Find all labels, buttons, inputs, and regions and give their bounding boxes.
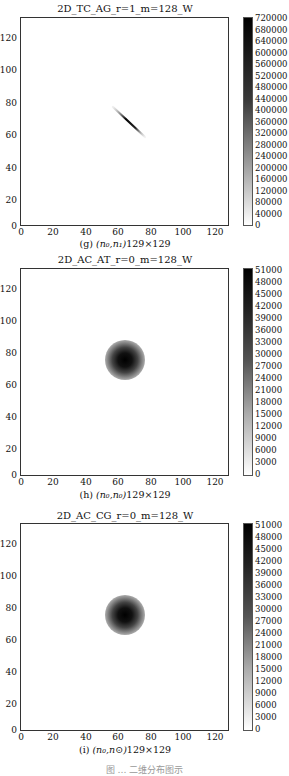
xtick: 100 bbox=[174, 227, 191, 237]
xtick: 100 bbox=[174, 732, 191, 742]
xtick: 120 bbox=[206, 227, 223, 237]
cb-label: 24000 bbox=[255, 629, 282, 638]
cb-label: 6000 bbox=[255, 701, 277, 710]
xtick: 0 bbox=[18, 227, 24, 237]
cb-label: 51000 bbox=[255, 266, 282, 275]
cb-label: 40000 bbox=[255, 210, 282, 219]
xtick: 0 bbox=[18, 477, 24, 487]
ytick: 0 bbox=[11, 725, 17, 735]
ytick: 20 bbox=[6, 195, 17, 205]
cb-label: 600000 bbox=[255, 49, 287, 58]
cb-label: 0 bbox=[255, 470, 260, 479]
xtick: 20 bbox=[47, 477, 58, 487]
xtick: 20 bbox=[47, 732, 58, 742]
cb-label: 0 bbox=[255, 725, 260, 734]
chart-title: 2D_TC_AG_r=1_m=128_W bbox=[20, 3, 230, 15]
cb-label: 9000 bbox=[255, 434, 277, 443]
cb-label: 440000 bbox=[255, 95, 287, 104]
heatmap-blob bbox=[105, 595, 145, 635]
cb-label: 160000 bbox=[255, 175, 287, 184]
ytick: 60 bbox=[6, 130, 17, 140]
colorbar bbox=[243, 523, 253, 731]
ytick: 40 bbox=[6, 412, 17, 422]
xtick: 100 bbox=[174, 477, 191, 487]
xtick: 120 bbox=[206, 477, 223, 487]
cb-label: 51000 bbox=[255, 521, 282, 530]
xtick: 80 bbox=[145, 227, 156, 237]
xtick: 60 bbox=[112, 477, 123, 487]
cb-label: 27000 bbox=[255, 362, 282, 371]
cb-label: 39000 bbox=[255, 314, 282, 323]
cb-label: 360000 bbox=[255, 118, 287, 127]
cb-label: 80000 bbox=[255, 198, 282, 207]
cb-label: 33000 bbox=[255, 338, 282, 347]
ytick: 0 bbox=[11, 221, 17, 231]
ytick: 100 bbox=[0, 316, 17, 326]
cb-label: 400000 bbox=[255, 106, 287, 115]
chart-title: 2D_AC_AT_r=0_m=128_W bbox=[20, 254, 230, 266]
subfigure-caption: (g) (n₀,n₁)129×129 bbox=[20, 238, 230, 249]
cb-label: 680000 bbox=[255, 26, 287, 35]
ytick: 40 bbox=[6, 163, 17, 173]
caption-vars: (n₀,n⊙) bbox=[92, 744, 126, 755]
cb-label: 200000 bbox=[255, 164, 287, 173]
subfigure-caption: (h) (n₀,n₀)129×129 bbox=[20, 489, 230, 500]
cb-label: 30000 bbox=[255, 605, 282, 614]
ytick: 20 bbox=[6, 699, 17, 709]
ytick: 20 bbox=[6, 444, 17, 454]
caption-size: 129×129 bbox=[127, 744, 171, 755]
cb-label: 48000 bbox=[255, 278, 282, 287]
cb-label: 3000 bbox=[255, 458, 277, 467]
cb-label: 9000 bbox=[255, 689, 277, 698]
xtick: 60 bbox=[112, 227, 123, 237]
xtick: 40 bbox=[80, 227, 91, 237]
figure-caption: 图 … 二维分布图示 bbox=[0, 763, 289, 776]
chart-title: 2D_AC_CG_r=0_m=128_W bbox=[20, 510, 230, 522]
ytick: 40 bbox=[6, 667, 17, 677]
cb-label: 15000 bbox=[255, 665, 282, 674]
heatmap-blob bbox=[105, 340, 145, 380]
xtick: 60 bbox=[112, 732, 123, 742]
cb-label: 720000 bbox=[255, 14, 287, 23]
cb-label: 48000 bbox=[255, 533, 282, 542]
ytick: 80 bbox=[6, 603, 17, 613]
heatmap-streak bbox=[21, 18, 228, 225]
cb-label: 640000 bbox=[255, 37, 287, 46]
caption-label: (g) bbox=[79, 238, 96, 249]
ytick: 100 bbox=[0, 571, 17, 581]
caption-label: (h) bbox=[79, 489, 96, 500]
cb-label: 42000 bbox=[255, 557, 282, 566]
xtick: 80 bbox=[145, 732, 156, 742]
ytick: 60 bbox=[6, 635, 17, 645]
caption-label: (i) bbox=[79, 744, 92, 755]
cb-label: 560000 bbox=[255, 60, 287, 69]
cb-label: 45000 bbox=[255, 290, 282, 299]
xtick: 0 bbox=[18, 732, 24, 742]
cb-label: 39000 bbox=[255, 569, 282, 578]
colorbar bbox=[243, 17, 253, 226]
cb-label: 36000 bbox=[255, 581, 282, 590]
plot-area bbox=[20, 17, 229, 226]
caption-size: 129×129 bbox=[126, 238, 170, 249]
caption-vars: (n₀,n₁) bbox=[96, 238, 126, 249]
cb-label: 520000 bbox=[255, 72, 287, 81]
plot-area bbox=[20, 268, 229, 476]
cb-label: 120000 bbox=[255, 187, 287, 196]
cb-label: 480000 bbox=[255, 83, 287, 92]
ytick: 80 bbox=[6, 348, 17, 358]
subfigure-caption: (i) (n₀,n⊙)129×129 bbox=[20, 744, 230, 755]
cb-label: 42000 bbox=[255, 302, 282, 311]
ytick: 120 bbox=[0, 539, 17, 549]
plot-area bbox=[20, 523, 229, 731]
cb-label: 36000 bbox=[255, 326, 282, 335]
xtick: 120 bbox=[206, 732, 223, 742]
xtick: 80 bbox=[145, 477, 156, 487]
cb-label: 33000 bbox=[255, 593, 282, 602]
cb-label: 0 bbox=[255, 221, 260, 230]
xtick: 20 bbox=[47, 227, 58, 237]
cb-label: 18000 bbox=[255, 653, 282, 662]
cb-label: 12000 bbox=[255, 677, 282, 686]
xtick: 40 bbox=[80, 477, 91, 487]
caption-size: 129×129 bbox=[126, 489, 170, 500]
cb-label: 27000 bbox=[255, 617, 282, 626]
